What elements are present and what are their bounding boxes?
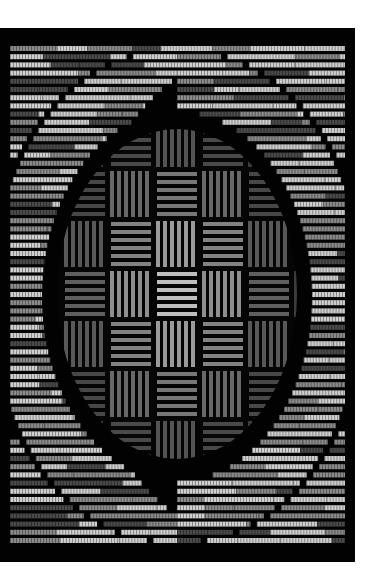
- woven-pattern-image: [0, 28, 355, 562]
- textile-panel: [0, 28, 355, 562]
